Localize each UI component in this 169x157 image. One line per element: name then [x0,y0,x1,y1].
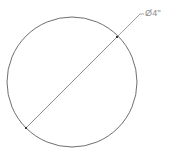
endpoint-marker-lower [25,127,27,129]
endpoint-marker-upper [116,36,118,38]
drawing-canvas [0,0,169,157]
diameter-dimension-label: Ø4" [145,9,161,18]
leader-line [117,14,140,37]
diameter-line [26,37,117,128]
